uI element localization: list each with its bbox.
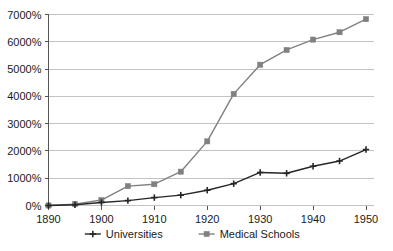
data-point-marker (178, 169, 183, 174)
x-axis (49, 206, 375, 210)
data-point-marker (310, 37, 315, 42)
x-tick-label: 1900 (89, 213, 113, 225)
data-point-marker (258, 62, 263, 67)
data-point-marker (152, 182, 157, 187)
y-tick-label: 4000% (7, 90, 41, 102)
chart-legend: UniversitiesMedical Schools (85, 228, 300, 240)
y-tick-label: 6000% (7, 36, 41, 48)
series-line-universities (49, 150, 367, 206)
y-tick-label: 1000% (7, 172, 41, 184)
x-tick-label: 1940 (301, 213, 325, 225)
data-point-marker (205, 139, 210, 144)
y-axis (45, 15, 49, 206)
line-chart: 0%1000%2000%3000%4000%5000%6000%7000% 18… (0, 0, 393, 251)
x-tick-label: 1920 (195, 213, 219, 225)
series-medical-schools (46, 17, 369, 209)
series-line-medical-schools (49, 19, 367, 205)
data-point-marker (337, 30, 342, 35)
legend-swatch-marker (204, 231, 209, 236)
y-tick-label: 2000% (7, 145, 41, 157)
series-universities (45, 146, 369, 208)
y-tick-label: 5000% (7, 63, 41, 75)
x-tick-label: 1930 (248, 213, 272, 225)
gridlines (49, 15, 375, 179)
x-tick-label: 1910 (142, 213, 166, 225)
data-point-marker (231, 91, 236, 96)
legend-label-medical-schools: Medical Schools (220, 228, 301, 240)
y-tick-label: 7000% (7, 9, 41, 21)
x-tick-label: 1950 (354, 213, 378, 225)
data-point-marker (363, 17, 368, 22)
y-tick-label: 0% (26, 200, 42, 212)
x-tick-label: 1890 (36, 213, 60, 225)
chart-container: 0%1000%2000%3000%4000%5000%6000%7000% 18… (0, 0, 393, 251)
data-point-marker (284, 47, 289, 52)
legend-label-universities: Universities (106, 228, 163, 240)
y-tick-label: 3000% (7, 118, 41, 130)
x-tick-labels: 1890190019101920193019401950 (36, 213, 378, 225)
data-point-marker (125, 184, 130, 189)
y-tick-labels: 0%1000%2000%3000%4000%5000%6000%7000% (7, 9, 41, 212)
